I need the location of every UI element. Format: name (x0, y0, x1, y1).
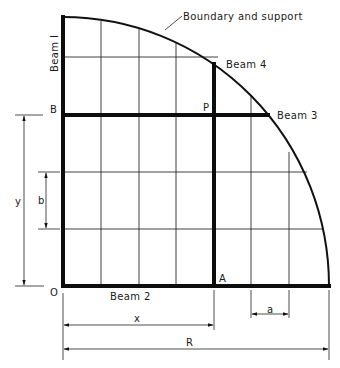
boundary-leader-line (165, 16, 182, 30)
origin-label: O (50, 287, 58, 298)
dimension-y-label: y (15, 196, 21, 207)
dimension-r-label: R (186, 337, 193, 348)
point-p-label: P (203, 102, 209, 113)
dimension-a-label: a (267, 304, 274, 315)
dimension-b-label: b (38, 195, 45, 206)
beam-3-label: Beam 3 (277, 110, 318, 121)
grid-horizontal-lines (63, 57, 324, 229)
point-a-label: A (219, 273, 226, 284)
point-b-label: B (50, 104, 57, 115)
quarter-plate-beam-grid-diagram: Boundary and support Beam I Beam 4 Beam … (0, 0, 340, 368)
beam-1-label: Beam I (49, 35, 60, 72)
beam-2-label: Beam 2 (110, 291, 151, 302)
boundary-label: Boundary and support (183, 11, 303, 22)
beam-4-label: Beam 4 (226, 59, 267, 70)
dimension-x-label: x (134, 313, 140, 324)
